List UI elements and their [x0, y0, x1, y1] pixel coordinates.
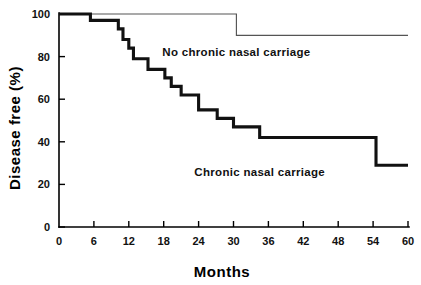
x-tick-label: 42	[297, 235, 309, 247]
curve-group	[59, 14, 408, 165]
y-axis-title: Disease free (%)	[6, 66, 23, 190]
x-tick-label: 54	[367, 235, 380, 247]
x-tick-label: 60	[402, 235, 414, 247]
curve-chronic-nasal-carriage	[59, 14, 408, 165]
x-tick-label: 24	[192, 235, 205, 247]
x-tick-label: 30	[227, 235, 239, 247]
x-tick-label: 12	[123, 235, 135, 247]
label-no-chronic-nasal-carriage: No chronic nasal carriage	[162, 46, 310, 58]
series-label-group: No chronic nasal carriageChronic nasal c…	[162, 46, 325, 177]
x-axis-title: Months	[194, 263, 250, 280]
y-tick-label: 20	[38, 178, 50, 190]
y-tick-label: 0	[44, 221, 50, 233]
survival-chart-figure: Disease free (%) Months 020406080100 061…	[0, 0, 421, 285]
x-tick-label: 48	[332, 235, 344, 247]
y-tick-label: 100	[32, 8, 50, 20]
x-axis-ticks: 06121824303642485460	[56, 221, 414, 247]
x-tick-label: 36	[262, 235, 274, 247]
curve-no-chronic-nasal-carriage	[59, 14, 408, 35]
x-tick-label: 6	[91, 235, 97, 247]
chart-svg: Disease free (%) Months 020406080100 061…	[0, 0, 421, 285]
label-chronic-nasal-carriage: Chronic nasal carriage	[194, 166, 325, 178]
x-tick-label: 18	[158, 235, 170, 247]
y-tick-label: 60	[38, 93, 50, 105]
y-axis-ticks: 020406080100	[32, 8, 65, 233]
x-tick-label: 0	[56, 235, 62, 247]
y-tick-label: 80	[38, 51, 50, 63]
y-tick-label: 40	[38, 136, 50, 148]
